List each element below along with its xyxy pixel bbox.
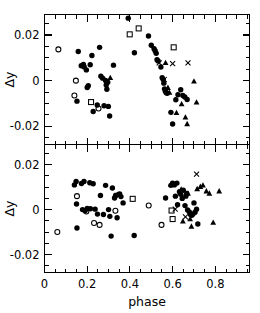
marker-cross — [186, 60, 191, 65]
series-filled-triangle — [112, 181, 222, 228]
marker-open-square — [89, 100, 94, 105]
marker-filled-circle — [81, 179, 86, 184]
marker-filled-triangle — [174, 110, 180, 115]
x-tick-label: 0.2 — [78, 277, 96, 291]
marker-filled-circle — [108, 233, 113, 238]
marker-filled-triangle — [183, 114, 189, 119]
marker-filled-circle — [92, 206, 97, 211]
marker-filled-circle — [107, 214, 112, 219]
marker-cross — [183, 214, 188, 219]
marker-filled-circle — [170, 121, 175, 126]
y-tick-label: 0.02 — [14, 28, 40, 42]
marker-open-circle — [56, 47, 61, 52]
marker-filled-circle — [155, 58, 160, 63]
data-points — [55, 172, 222, 239]
marker-filled-circle — [101, 212, 106, 217]
marker-filled-circle — [74, 98, 79, 103]
marker-filled-circle — [73, 179, 78, 184]
marker-filled-circle — [191, 200, 196, 205]
marker-filled-circle — [110, 185, 115, 190]
marker-filled-circle — [184, 97, 189, 102]
y-axis-label: Δy — [2, 71, 17, 88]
marker-filled-triangle — [216, 188, 222, 193]
marker-filled-circle — [146, 33, 151, 38]
marker-open-circle — [72, 93, 77, 98]
marker-filled-triangle — [194, 99, 200, 104]
marker-filled-circle — [97, 45, 102, 50]
marker-filled-circle — [132, 50, 137, 55]
marker-filled-triangle — [184, 121, 190, 126]
marker-open-circle — [73, 78, 78, 83]
marker-filled-circle — [95, 211, 100, 216]
marker-filled-circle — [98, 193, 103, 198]
marker-open-square — [127, 32, 132, 37]
y-axis-label: Δy — [2, 200, 17, 217]
marker-filled-circle — [175, 92, 180, 97]
x-tick-label: 0.6 — [163, 277, 181, 291]
marker-filled-circle — [118, 194, 123, 199]
marker-filled-circle — [106, 207, 111, 212]
marker-filled-circle — [86, 83, 91, 88]
marker-filled-circle — [74, 201, 79, 206]
marker-filled-circle — [89, 53, 94, 58]
marker-filled-circle — [88, 206, 93, 211]
marker-cross — [170, 61, 175, 66]
x-axis-label: phase — [128, 294, 166, 309]
marker-filled-circle — [126, 15, 131, 20]
marker-filled-circle — [87, 62, 92, 67]
top-panel: 0.020-0.02Δy — [2, 15, 250, 145]
marker-filled-circle — [107, 113, 112, 118]
marker-filled-circle — [173, 193, 178, 198]
marker-filled-circle — [178, 87, 183, 92]
marker-filled-triangle — [163, 60, 169, 65]
marker-filled-circle — [76, 49, 81, 54]
marker-open-square — [171, 45, 176, 50]
x-tick-label: 0.8 — [206, 277, 224, 291]
marker-filled-circle — [174, 180, 179, 185]
x-tick-label: 0 — [41, 277, 48, 291]
marker-filled-triangle — [191, 78, 197, 83]
scatter-figure: 0.020-0.02Δy0.020-0.0200.20.40.60.8Δypha… — [0, 0, 260, 313]
y-tick-label: 0 — [32, 74, 39, 88]
series-open-square — [89, 26, 177, 105]
marker-filled-triangle — [179, 101, 185, 106]
marker-open-square — [136, 26, 141, 31]
marker-open-circle — [92, 221, 97, 226]
marker-filled-triangle — [107, 75, 113, 80]
y-tick-label: -0.02 — [10, 119, 40, 133]
marker-filled-circle — [84, 67, 89, 72]
marker-open-square — [170, 217, 175, 222]
marker-filled-circle — [90, 181, 95, 186]
y-tick-label: 0 — [32, 203, 39, 217]
marker-filled-circle — [168, 110, 173, 115]
series-open-square — [130, 196, 175, 221]
panel-frame — [45, 145, 250, 273]
marker-filled-circle — [111, 62, 116, 67]
y-tick-label: 0.02 — [14, 158, 40, 172]
marker-filled-circle — [95, 102, 100, 107]
marker-filled-triangle — [189, 223, 195, 228]
marker-filled-triangle — [180, 218, 186, 223]
marker-filled-circle — [114, 215, 119, 220]
plot-canvas: 0.020-0.02Δy0.020-0.0200.20.40.60.8Δypha… — [0, 0, 260, 313]
series-filled-triangle — [107, 60, 199, 126]
marker-filled-circle — [194, 206, 199, 211]
marker-filled-triangle — [210, 220, 216, 225]
marker-open-circle — [159, 222, 164, 227]
marker-filled-circle — [173, 97, 178, 102]
x-tick-label: 0.4 — [121, 277, 139, 291]
marker-filled-circle — [74, 225, 79, 230]
marker-open-circle — [146, 203, 151, 208]
marker-filled-circle — [163, 195, 168, 200]
data-points — [56, 15, 200, 126]
marker-filled-circle — [103, 183, 108, 188]
marker-open-circle — [55, 230, 60, 235]
marker-filled-circle — [90, 109, 95, 114]
marker-filled-circle — [153, 51, 158, 56]
marker-filled-circle — [106, 104, 111, 109]
marker-open-circle — [113, 208, 118, 213]
marker-open-circle — [97, 222, 102, 227]
marker-cross — [194, 172, 199, 177]
marker-filled-circle — [105, 80, 110, 85]
marker-filled-circle — [195, 221, 200, 226]
